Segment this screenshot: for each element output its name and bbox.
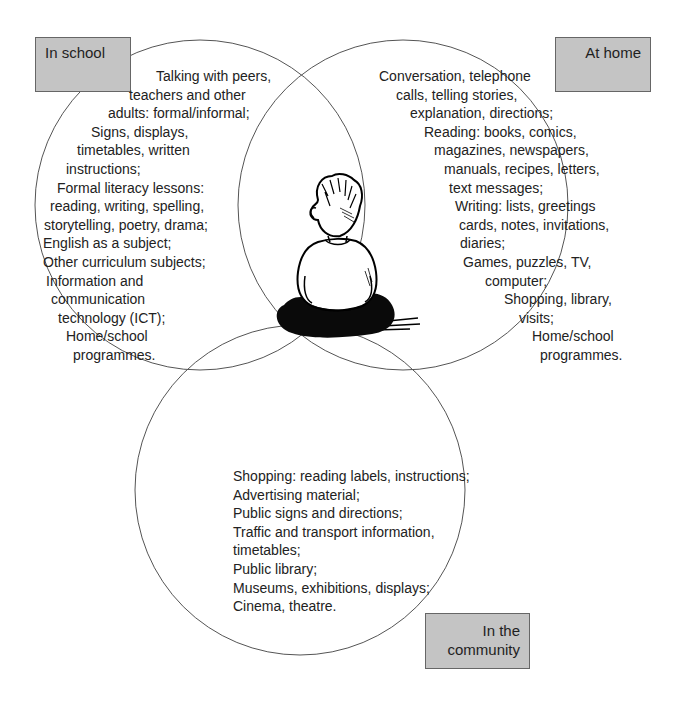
- label-in-school-text: In school: [45, 44, 105, 61]
- home-line: computer;: [485, 272, 685, 291]
- home-line: Writing: lists, greetings: [455, 197, 685, 216]
- home-line: Conversation, telephone: [379, 67, 679, 86]
- community-line: timetables;: [233, 541, 533, 560]
- label-at-home-text: At home: [585, 44, 641, 61]
- school-line: communication: [51, 290, 351, 309]
- home-line: text messages;: [449, 179, 685, 198]
- home-line: calls, telling stories,: [396, 86, 685, 105]
- label-in-community: In the community: [425, 613, 530, 669]
- home-line: programmes.: [540, 346, 685, 365]
- community-line: Shopping: reading labels, instructions;: [233, 467, 533, 486]
- school-line: Other curriculum subjects;: [43, 253, 343, 272]
- community-line: Museums, exhibitions, displays;: [233, 579, 533, 598]
- community-line: Advertising material;: [233, 486, 533, 505]
- home-line: explanation, directions;: [410, 104, 685, 123]
- community-line: Public library;: [233, 560, 533, 579]
- community-line: Public signs and directions;: [233, 504, 533, 523]
- home-line: magazines, newspapers,: [434, 141, 685, 160]
- school-line: storytelling, poetry, drama;: [44, 216, 344, 235]
- school-line: English as a subject;: [43, 234, 343, 253]
- home-line: Shopping, library,: [504, 290, 685, 309]
- school-line: Formal literacy lessons:: [57, 179, 357, 198]
- home-line: manuals, recipes, letters,: [444, 160, 685, 179]
- school-line: technology (ICT);: [58, 309, 358, 328]
- home-line: Reading: books, comics,: [424, 123, 685, 142]
- label-community-line1: In the: [435, 621, 520, 640]
- home-line: visits;: [519, 309, 685, 328]
- home-line: cards, notes, invitations,: [459, 216, 685, 235]
- school-line: instructions;: [66, 160, 366, 179]
- school-line: Information and: [46, 272, 346, 291]
- home-line: Home/school: [532, 327, 685, 346]
- school-line: adults: formal/informal;: [108, 104, 408, 123]
- school-activities-list: Talking with peers,teachers and otheradu…: [0, 67, 300, 365]
- school-line: Signs, displays,: [91, 123, 391, 142]
- home-line: diaries;: [460, 234, 685, 253]
- community-line: Traffic and transport information,: [233, 523, 533, 542]
- home-line: Games, puzzles, TV,: [463, 253, 685, 272]
- community-line: Cinema, theatre.: [233, 597, 533, 616]
- school-line: Home/school: [66, 327, 366, 346]
- school-line: reading, writing, spelling,: [50, 197, 350, 216]
- label-community-line2: community: [435, 640, 520, 659]
- home-activities-list: Conversation, telephonecalls, telling st…: [378, 67, 678, 365]
- school-line: programmes.: [73, 346, 373, 365]
- school-line: timetables, written: [77, 141, 377, 160]
- community-activities-list: Shopping: reading labels, instructions;A…: [233, 467, 533, 616]
